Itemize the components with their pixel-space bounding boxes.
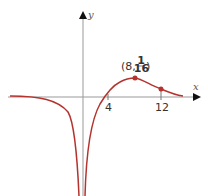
y-axis-arrow-icon xyxy=(79,11,87,19)
y-axis-label: y xyxy=(87,9,94,20)
max-point-marker xyxy=(133,76,138,81)
point-x12-marker xyxy=(159,87,164,92)
function-graph: y x 4 12 (8, 1 16 ) xyxy=(0,0,208,196)
curve-right-branch xyxy=(85,78,183,196)
tick-label-12: 12 xyxy=(155,101,169,114)
curve-left-branch xyxy=(10,96,79,196)
tick-label-4: 4 xyxy=(105,101,112,114)
x-axis-label: x xyxy=(193,81,199,92)
x-axis-arrow-icon xyxy=(193,93,201,101)
max-point-label-close: ) xyxy=(146,60,150,73)
